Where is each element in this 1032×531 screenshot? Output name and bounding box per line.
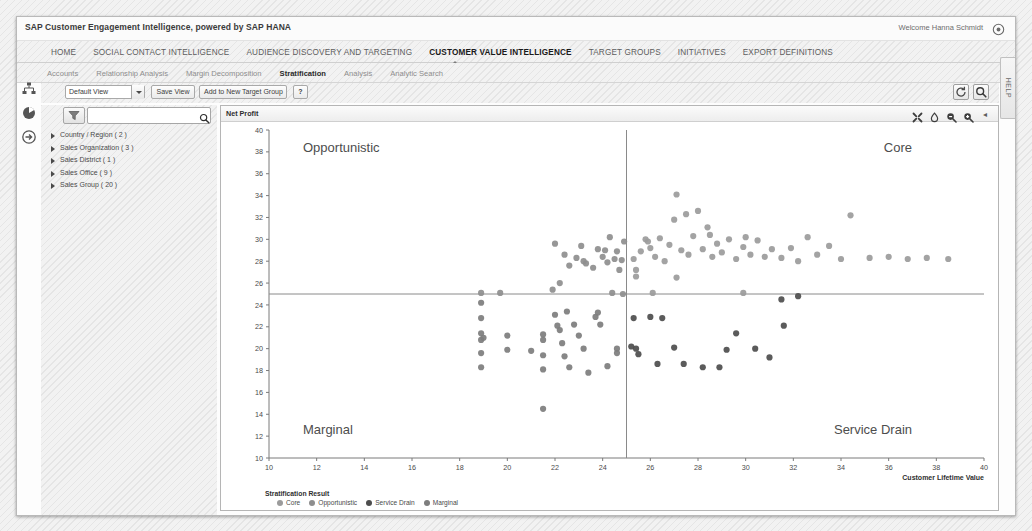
subnav-item-accounts[interactable]: Accounts xyxy=(47,69,78,78)
scatter-plot-svg[interactable]: 1012141618202224262830323436384010121416… xyxy=(221,122,1002,516)
data-point[interactable] xyxy=(766,354,772,360)
data-point[interactable] xyxy=(650,290,656,296)
data-point[interactable] xyxy=(781,323,787,329)
data-point[interactable] xyxy=(724,347,730,353)
data-point[interactable] xyxy=(480,335,486,341)
expand-triangle-icon[interactable] xyxy=(51,171,55,177)
data-point[interactable] xyxy=(662,258,668,264)
tree-item-country-region[interactable]: Country / Region ( 2 ) xyxy=(47,129,217,142)
data-point[interactable] xyxy=(564,308,570,314)
sign-in-arrow-icon[interactable] xyxy=(21,129,37,145)
series-service-drain[interactable] xyxy=(628,293,801,370)
data-point[interactable] xyxy=(571,322,577,328)
data-point[interactable] xyxy=(478,315,484,321)
data-point[interactable] xyxy=(659,315,665,321)
data-point[interactable] xyxy=(576,332,582,338)
data-point[interactable] xyxy=(700,246,706,252)
data-point[interactable] xyxy=(945,256,951,262)
data-point[interactable] xyxy=(621,238,627,244)
chevron-left-icon[interactable]: ◂ xyxy=(979,109,990,120)
subnav-item-relationship-analysis[interactable]: Relationship Analysis xyxy=(96,69,168,78)
data-point[interactable] xyxy=(631,315,637,321)
data-point[interactable] xyxy=(604,363,610,369)
nav-item-home[interactable]: HOME xyxy=(51,48,76,57)
save-view-button[interactable]: Save View xyxy=(151,85,195,99)
data-point[interactable] xyxy=(635,351,641,357)
data-point[interactable] xyxy=(602,247,608,253)
data-point[interactable] xyxy=(685,252,691,258)
data-point[interactable] xyxy=(666,242,672,248)
data-point[interactable] xyxy=(657,235,663,241)
data-point[interactable] xyxy=(540,352,546,358)
data-point[interactable] xyxy=(550,287,556,293)
data-point[interactable] xyxy=(557,327,563,333)
data-point[interactable] xyxy=(740,244,746,250)
subnav-item-margin-decomposition[interactable]: Margin Decomposition xyxy=(186,69,262,78)
data-point[interactable] xyxy=(671,217,677,223)
tree-item-sales-district[interactable]: Sales District ( 1 ) xyxy=(47,154,217,167)
data-point[interactable] xyxy=(633,273,639,279)
legend-item-service-drain[interactable]: Service Drain xyxy=(366,499,415,506)
funnel-icon[interactable] xyxy=(63,107,85,124)
data-point[interactable] xyxy=(733,330,739,336)
data-point[interactable] xyxy=(647,245,653,251)
add-to-new-target-group-button[interactable]: Add to New Target Group xyxy=(199,85,287,99)
data-point[interactable] xyxy=(795,293,801,299)
data-point[interactable] xyxy=(614,350,620,356)
data-point[interactable] xyxy=(647,314,653,320)
data-point[interactable] xyxy=(611,256,617,262)
expand-fullscreen-icon[interactable] xyxy=(912,109,923,120)
search-icon[interactable] xyxy=(973,84,989,100)
gear-icon[interactable] xyxy=(992,22,1005,35)
series-opportunistic[interactable] xyxy=(478,234,627,297)
data-point[interactable] xyxy=(743,234,749,240)
subnav-item-analysis[interactable]: Analysis xyxy=(344,69,372,78)
data-point[interactable] xyxy=(726,236,732,242)
data-point[interactable] xyxy=(671,344,677,350)
data-point[interactable] xyxy=(600,254,606,260)
data-point[interactable] xyxy=(678,247,684,253)
data-point[interactable] xyxy=(747,252,753,258)
data-point[interactable] xyxy=(754,237,760,243)
nav-item-initiatives[interactable]: INITIATIVES xyxy=(678,48,726,57)
tree-item-sales-organization[interactable]: Sales Organization ( 3 ) xyxy=(47,142,217,155)
data-point[interactable] xyxy=(566,364,572,370)
nav-item-target-groups[interactable]: TARGET GROUPS xyxy=(589,48,661,57)
expand-triangle-icon[interactable] xyxy=(51,146,55,152)
help-question-button[interactable]: ? xyxy=(293,85,308,99)
data-point[interactable] xyxy=(540,331,546,337)
data-point[interactable] xyxy=(590,265,596,271)
data-point[interactable] xyxy=(619,257,625,263)
data-point[interactable] xyxy=(595,309,601,315)
data-point[interactable] xyxy=(673,191,679,197)
data-point[interactable] xyxy=(585,370,591,376)
legend-item-core[interactable]: Core xyxy=(277,499,300,506)
nav-item-customer-value-intelligence[interactable]: CUSTOMER VALUE INTELLIGENCE xyxy=(429,48,572,57)
zoom-out-icon[interactable] xyxy=(946,109,957,120)
data-point[interactable] xyxy=(607,234,613,240)
data-point[interactable] xyxy=(566,262,572,268)
data-point[interactable] xyxy=(573,255,579,261)
data-point[interactable] xyxy=(504,347,510,353)
nav-item-audience-discovery-and-targeting[interactable]: AUDIENCE DISCOVERY AND TARGETING xyxy=(246,48,412,57)
data-point[interactable] xyxy=(709,254,715,260)
data-point[interactable] xyxy=(867,255,873,261)
globe-segment-icon[interactable] xyxy=(21,105,37,121)
expand-triangle-icon[interactable] xyxy=(51,158,55,164)
data-point[interactable] xyxy=(719,249,725,255)
series-core[interactable] xyxy=(631,191,952,296)
data-point[interactable] xyxy=(733,256,739,262)
view-select[interactable]: Default View xyxy=(65,85,145,99)
data-point[interactable] xyxy=(478,364,484,370)
data-point[interactable] xyxy=(673,275,679,281)
expand-triangle-icon[interactable] xyxy=(51,133,55,139)
data-point[interactable] xyxy=(561,252,567,258)
series-marginal[interactable] xyxy=(478,300,620,412)
data-point[interactable] xyxy=(788,245,794,251)
data-point[interactable] xyxy=(838,256,844,262)
nav-item-social-contact-intelligence[interactable]: SOCIAL CONTACT INTELLIGENCE xyxy=(93,48,229,57)
data-point[interactable] xyxy=(795,258,801,264)
data-point[interactable] xyxy=(778,296,784,302)
data-point[interactable] xyxy=(478,300,484,306)
data-point[interactable] xyxy=(497,290,503,296)
